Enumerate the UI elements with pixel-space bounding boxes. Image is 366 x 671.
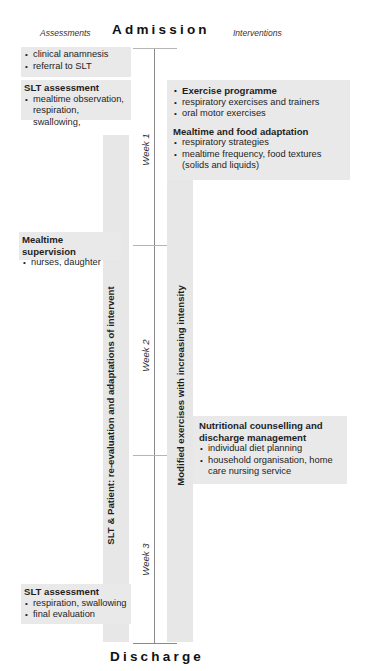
box-title: Mealtime supervision [22, 234, 118, 257]
assessments-header: Assessments [40, 28, 91, 38]
assessment-item: clinical anamnesis [24, 49, 128, 61]
intervention-item: oral motor exercises [173, 108, 346, 120]
timeline-tick-week2 [133, 245, 167, 246]
assessment-item: referral to SLT [24, 61, 128, 73]
box-title: SLT assessment [24, 586, 128, 598]
timeline-tick-discharge [133, 643, 177, 644]
intervention-item: individual diet planning [199, 443, 343, 455]
mealtime-food-adaptation-title: Mealtime and food adaptation [173, 126, 346, 138]
timeline-axis [154, 48, 155, 644]
week-2-label: Week 2 [140, 331, 151, 381]
interventions-header: Interventions [233, 28, 282, 38]
mealtime-supervision-box: Mealtime supervision nurses, daughter [19, 232, 121, 260]
intervention-item: respiratory exercises and trainers [173, 97, 346, 109]
intervention-item: respiratory strategies [173, 137, 346, 149]
interventions-week1-box: Exercise programme respiratory exercises… [167, 80, 350, 180]
slt-assessment-final-box: SLT assessment respiration, swallowing f… [21, 584, 131, 624]
week-1-label: Week 1 [140, 125, 151, 175]
assessment-item: mealtime observation, respiration, swall… [24, 94, 128, 129]
slt-patient-label: SLT & Patient: re-evaluation and adaptat… [105, 266, 116, 566]
box-title: SLT assessment [24, 82, 128, 94]
discharge-title: Discharge [110, 649, 204, 664]
assessment-item: nurses, daughter [22, 257, 118, 269]
week-3-label: Week 3 [140, 535, 151, 585]
intervention-item: mealtime frequency, food textures (solid… [173, 149, 346, 172]
modified-exercises-label: Modified exercises with increasing inten… [175, 236, 186, 536]
nutritional-counselling-title: Nutritional counselling and discharge ma… [199, 420, 343, 443]
admission-title: Admission [112, 22, 210, 37]
timeline-tick-admission [133, 48, 177, 49]
exercise-programme-heading: Exercise programme [173, 85, 346, 97]
timeline-tick-week3 [133, 455, 167, 456]
assessment-admission-box: clinical anamnesis referral to SLT [21, 47, 131, 77]
assessment-item: final evaluation [24, 609, 128, 621]
assessment-item: respiration, swallowing [24, 598, 128, 610]
intervention-item: household organisation, home care nursin… [199, 455, 343, 478]
slt-assessment-initial-box: SLT assessment mealtime observation, res… [21, 80, 131, 120]
nutritional-counselling-box: Nutritional counselling and discharge ma… [193, 416, 347, 484]
